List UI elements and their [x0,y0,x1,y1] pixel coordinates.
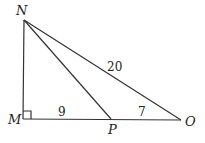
length-mp: 9 [58,105,66,119]
segment-nm [23,20,24,119]
triangle-diagram: N M P O 9 7 20 [0,0,205,143]
segment-no [24,20,181,120]
length-no: 20 [107,60,122,74]
segment-mo [23,119,181,120]
right-angle-marker [23,111,31,119]
length-po: 7 [138,105,146,119]
label-point-p: P [107,122,117,137]
label-point-m: M [7,112,22,127]
label-point-o: O [185,114,196,129]
segment-np [24,20,111,119]
label-point-n: N [15,3,28,18]
